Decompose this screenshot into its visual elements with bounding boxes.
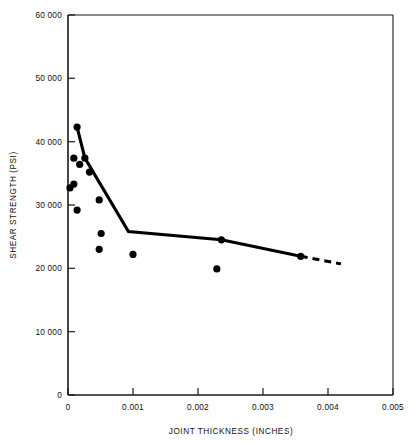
x-tick-label-0.004: 0.004 — [317, 402, 339, 412]
data-point — [297, 253, 304, 260]
y-tick-label-20000: 20 000 — [35, 263, 62, 273]
x-tick-label-0: 0 — [66, 402, 71, 412]
x-axis-title: JOINT THICKNESS (INCHES) — [169, 427, 293, 436]
y-tick-label-30000: 30 000 — [35, 200, 62, 210]
data-point — [96, 196, 103, 203]
y-tick-label-10000: 10 000 — [35, 327, 62, 337]
data-point — [129, 251, 136, 258]
data-point — [70, 155, 77, 162]
data-point — [76, 161, 83, 168]
y-axis-title: SHEAR STRENGTH (PSI) — [9, 151, 18, 258]
data-point — [74, 124, 81, 131]
chart-figure: 60 000 50 000 40 000 30 000 20 000 10 00… — [0, 0, 417, 441]
data-point — [213, 265, 220, 272]
y-tick-label-60000: 60 000 — [35, 10, 62, 20]
x-tick-label-0.001: 0.001 — [122, 402, 144, 412]
shear-strength-vs-joint-thickness-chart: 60 000 50 000 40 000 30 000 20 000 10 00… — [0, 0, 417, 441]
x-tick-label-0.002: 0.002 — [187, 402, 209, 412]
y-tick-label-40000: 40 000 — [35, 137, 62, 147]
x-tick-label-0.003: 0.003 — [252, 402, 274, 412]
data-point — [98, 230, 105, 237]
data-point — [74, 206, 81, 213]
data-point — [70, 181, 77, 188]
x-tick-label-0.005: 0.005 — [382, 402, 404, 412]
data-point — [96, 246, 103, 253]
data-point — [86, 168, 93, 175]
data-point — [81, 155, 88, 162]
chart-background — [0, 0, 417, 441]
data-point — [218, 236, 225, 243]
y-tick-label-0: 0 — [57, 390, 62, 400]
y-tick-label-50000: 50 000 — [35, 73, 62, 83]
